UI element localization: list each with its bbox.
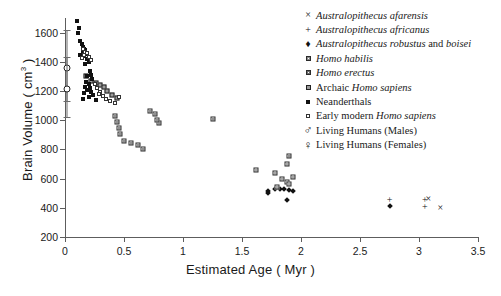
error-bar-cap — [64, 57, 71, 58]
data-point — [140, 147, 145, 152]
y-tick — [60, 179, 65, 180]
data-point — [210, 116, 215, 121]
data-point — [284, 162, 289, 167]
data-point — [118, 132, 123, 137]
y-tick — [60, 149, 65, 150]
data-point — [284, 197, 290, 203]
y-axis-line — [65, 18, 66, 237]
legend-label: Homo habilis — [316, 53, 373, 64]
y-tick-label: 1000 — [35, 114, 58, 126]
data-point — [112, 113, 117, 118]
legend-marker-icon — [300, 70, 316, 75]
legend-marker-icon: × — [300, 10, 316, 20]
legend-living-males: ♂Living Humans (Males) — [300, 123, 500, 137]
data-point — [290, 189, 296, 195]
x-tick — [242, 237, 243, 242]
data-point — [117, 125, 122, 130]
data-point — [93, 82, 97, 86]
legend-robustus-boisei: ♦Australopithecus robustus and boisei — [300, 37, 500, 51]
legend-marker-icon: ♦ — [300, 39, 316, 49]
data-point — [83, 62, 87, 66]
x-tick — [183, 237, 184, 242]
data-point — [77, 26, 81, 30]
legend-label: Australopithecus africanus — [316, 24, 429, 35]
data-point — [76, 31, 80, 35]
legend-marker-icon: ♀ — [300, 139, 316, 151]
legend-living-females: ♀Living Humans (Females) — [300, 138, 500, 152]
x-tick — [124, 237, 125, 242]
legend-marker-icon — [300, 114, 316, 118]
data-point — [108, 99, 112, 103]
x-axis-label: Estimated Age ( Myr ) — [0, 262, 501, 277]
chart-root: Brain Volume ( cm3 ) 2004006008001000120… — [0, 0, 501, 296]
legend-label: Australopithecus afarensis — [316, 10, 428, 21]
y-tick — [60, 33, 65, 34]
legend-marker-icon: + — [300, 25, 316, 35]
x-tick-label: 2.5 — [353, 245, 368, 257]
data-point — [265, 190, 271, 196]
legend-marker-icon — [300, 100, 316, 104]
x-tick — [301, 237, 302, 242]
data-point — [287, 153, 292, 158]
legend-marker-icon — [300, 56, 316, 61]
data-point — [275, 184, 280, 189]
data-point: + — [422, 202, 428, 212]
data-point — [114, 119, 119, 124]
data-point — [290, 174, 295, 179]
legend-label: Homo erectus — [316, 67, 374, 78]
data-point — [254, 167, 259, 172]
data-point — [97, 92, 101, 96]
data-point — [90, 77, 94, 81]
data-point — [152, 112, 157, 117]
y-tick-label: 800 — [40, 143, 58, 155]
data-point — [80, 56, 84, 60]
x-tick — [360, 237, 361, 242]
x-tick — [65, 237, 66, 242]
data-point — [64, 85, 71, 92]
y-tick-label: 400 — [40, 202, 58, 214]
legend-early-modern-sapiens: Early modern Homo sapiens — [300, 109, 500, 123]
data-point — [91, 93, 95, 97]
legend-label: Early modern Homo sapiens — [316, 110, 436, 121]
data-point — [122, 138, 127, 143]
error-bar-cap — [64, 117, 71, 118]
legend-habilis: Homo habilis — [300, 51, 500, 65]
data-point — [273, 171, 278, 176]
x-tick-label: 1 — [180, 245, 186, 257]
legend-label: Living Humans (Males) — [316, 125, 417, 136]
data-point — [117, 95, 121, 99]
data-point — [155, 118, 160, 123]
legend-label: Neanderthals — [316, 96, 371, 107]
data-point — [113, 101, 117, 105]
x-tick — [478, 237, 479, 242]
x-axis-line — [65, 237, 478, 238]
data-point — [129, 140, 134, 145]
data-point — [94, 98, 98, 102]
legend-label: Living Humans (Females) — [316, 139, 426, 150]
y-tick — [60, 120, 65, 121]
legend-archaic-sapiens: Archaic Homo sapiens — [300, 80, 500, 94]
data-point — [81, 97, 85, 101]
data-point — [89, 58, 93, 62]
y-tick-label: 1600 — [35, 27, 58, 39]
legend-marker-icon: ♂ — [300, 124, 316, 136]
legend-neanderthals: Neanderthals — [300, 94, 500, 108]
x-tick-label: 3 — [416, 245, 422, 257]
y-tick-label: 200 — [40, 231, 58, 243]
y-tick-label: 1400 — [35, 56, 58, 68]
y-tick — [60, 62, 65, 63]
y-tick — [60, 208, 65, 209]
y-tick-label: 1200 — [35, 85, 58, 97]
legend-erectus: Homo erectus — [300, 66, 500, 80]
x-tick-label: 0 — [62, 245, 68, 257]
error-bar-cap — [64, 30, 71, 31]
y-tick-label: 600 — [40, 173, 58, 185]
x-tick-label: 0.5 — [117, 245, 132, 257]
data-point — [87, 95, 91, 99]
legend: ×Australopithecus afarensis+Australopith… — [300, 8, 500, 152]
data-point — [82, 91, 86, 95]
data-point — [88, 69, 92, 73]
data-point — [75, 19, 79, 23]
data-point — [287, 182, 292, 187]
legend-label: Archaic Homo sapiens — [316, 82, 412, 93]
